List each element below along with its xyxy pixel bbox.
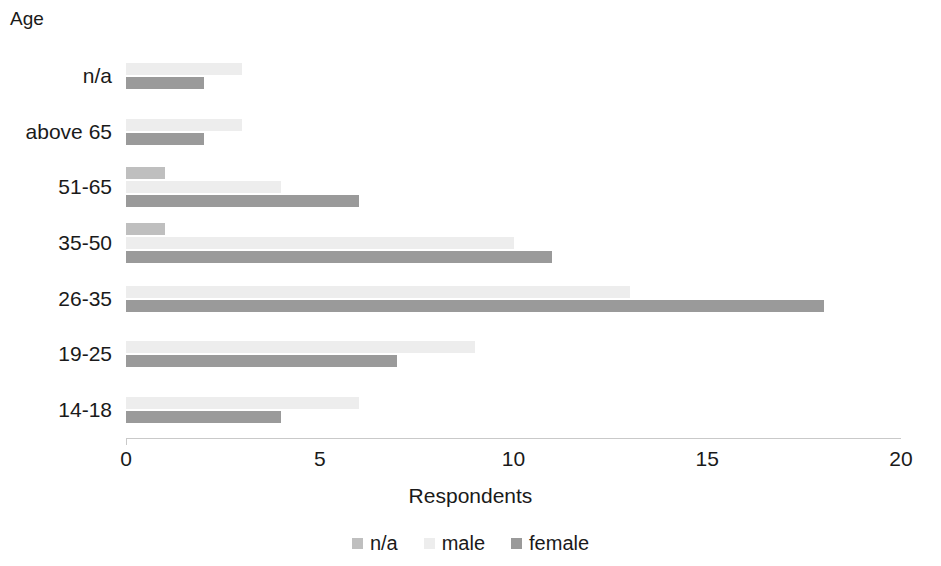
legend-label: female: [529, 532, 589, 555]
category-row: 51-65: [126, 167, 901, 207]
x-axis-line: [126, 438, 901, 439]
bar-female: [126, 411, 281, 423]
x-tick-label: 5: [314, 447, 326, 471]
category-label: 26-35: [58, 287, 112, 311]
bar-female: [126, 355, 397, 367]
category-label: above 65: [26, 120, 112, 144]
x-axis-title: Respondents: [0, 484, 941, 508]
bar-chart: Age n/aabove 6551-6535-5026-3519-2514-18…: [0, 0, 941, 566]
legend-item[interactable]: male: [424, 532, 485, 555]
x-axis-origin-tick: [126, 438, 127, 445]
bar-male: [126, 63, 242, 75]
bar-female: [126, 133, 204, 145]
category-label: n/a: [83, 64, 112, 88]
legend-swatch-icon: [511, 538, 522, 549]
bar-n-a: [126, 167, 165, 179]
category-row: 14-18: [126, 397, 901, 423]
bar-male: [126, 341, 475, 353]
x-tick-label: 10: [502, 447, 525, 471]
bar-group: [126, 119, 901, 145]
category-row: 35-50: [126, 223, 901, 263]
bar-group: [126, 286, 901, 312]
category-row: 26-35: [126, 286, 901, 312]
legend-swatch-icon: [352, 538, 363, 549]
bar-female: [126, 300, 824, 312]
bar-female: [126, 195, 359, 207]
plot-area: n/aabove 6551-6535-5026-3519-2514-18: [126, 48, 901, 438]
category-row: above 65: [126, 119, 901, 145]
category-label: 19-25: [58, 342, 112, 366]
bar-male: [126, 397, 359, 409]
bar-group: [126, 167, 901, 207]
bar-group: [126, 223, 901, 263]
bar-female: [126, 251, 552, 263]
category-label: 35-50: [58, 231, 112, 255]
legend-item[interactable]: female: [511, 532, 589, 555]
bar-female: [126, 77, 204, 89]
legend-label: male: [442, 532, 485, 555]
bar-group: [126, 341, 901, 367]
chart-legend: n/amalefemale: [0, 532, 941, 555]
x-tick-label: 15: [696, 447, 719, 471]
bar-male: [126, 119, 242, 131]
bar-male: [126, 237, 514, 249]
bar-n-a: [126, 223, 165, 235]
category-label: 51-65: [58, 175, 112, 199]
category-row: 19-25: [126, 341, 901, 367]
category-label: 14-18: [58, 398, 112, 422]
y-axis-title: Age: [10, 8, 44, 30]
bar-male: [126, 181, 281, 193]
bar-male: [126, 286, 630, 298]
x-tick-label: 20: [889, 447, 912, 471]
bar-group: [126, 397, 901, 423]
bar-group: [126, 63, 901, 89]
legend-swatch-icon: [424, 538, 435, 549]
x-tick-label: 0: [120, 447, 132, 471]
legend-item[interactable]: n/a: [352, 532, 398, 555]
legend-label: n/a: [370, 532, 398, 555]
category-row: n/a: [126, 63, 901, 89]
